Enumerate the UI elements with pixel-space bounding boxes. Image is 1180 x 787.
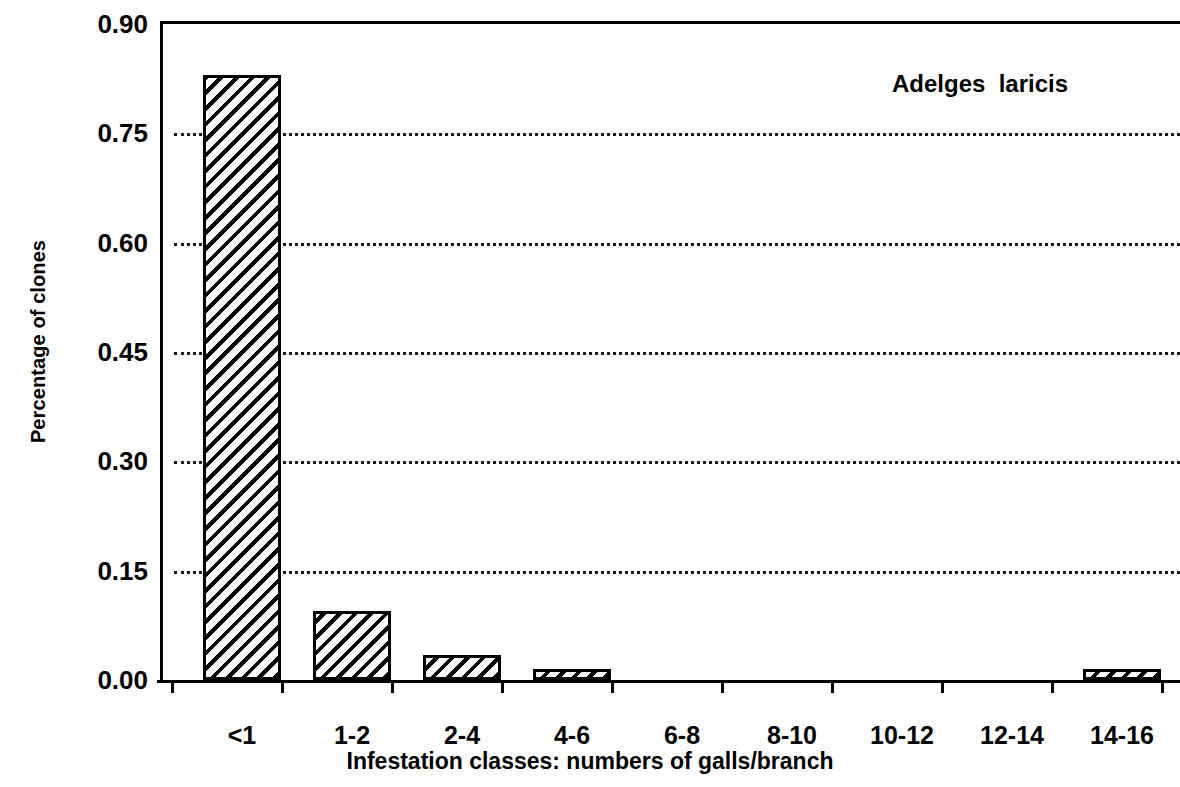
y-tick-label: 0.45 <box>64 339 148 365</box>
x-tick-label: 14-16 <box>1090 721 1154 750</box>
gridline <box>174 133 1180 136</box>
chart-figure: Percentage of clones 0.000.150.300.450.6… <box>0 0 1180 787</box>
x-tick-label: 1-2 <box>334 721 370 750</box>
y-tick-label: 0.60 <box>64 230 148 256</box>
gridline <box>174 461 1180 464</box>
bar <box>533 669 611 680</box>
x-tick <box>501 680 504 693</box>
x-tick <box>1161 680 1164 693</box>
x-tick <box>721 680 724 693</box>
x-tick <box>611 680 614 693</box>
bar <box>313 611 391 680</box>
x-tick <box>391 680 394 693</box>
gridline <box>174 352 1180 355</box>
x-tick <box>171 680 174 693</box>
x-axis-title: Infestation classes: numbers of galls/br… <box>0 748 1180 775</box>
bar <box>1083 669 1161 680</box>
x-tick <box>831 680 834 693</box>
plot-area: <11-22-44-66-88-1010-1212-1414-16 <box>160 21 1180 683</box>
x-tick-label: 12-14 <box>980 721 1044 750</box>
x-tick-label: <1 <box>228 721 257 750</box>
bar <box>203 75 281 680</box>
x-tick-label: 4-6 <box>554 721 590 750</box>
x-tick-label: 2-4 <box>444 721 480 750</box>
y-tick-label: 0.30 <box>64 448 148 474</box>
species-annotation: Adelges laricis <box>892 70 1068 98</box>
x-tick-label: 10-12 <box>870 721 934 750</box>
x-tick-label: 6-8 <box>664 721 700 750</box>
x-tick-label: 8-10 <box>767 721 817 750</box>
x-tick <box>281 680 284 693</box>
bar <box>423 655 501 681</box>
gridline <box>174 243 1180 246</box>
x-tick <box>1051 680 1054 693</box>
gridline <box>174 571 1180 574</box>
y-tick-label: 0.15 <box>64 558 148 584</box>
y-axis-tick-labels: 0.000.150.300.450.600.750.90 <box>0 0 148 787</box>
plot-frame-top <box>160 21 1180 24</box>
y-axis-line <box>160 21 163 683</box>
x-tick <box>941 680 944 693</box>
y-tick-label: 0.90 <box>64 11 148 37</box>
y-tick-label: 0.00 <box>64 667 148 693</box>
y-tick-label: 0.75 <box>64 120 148 146</box>
x-axis-line <box>157 680 1180 683</box>
